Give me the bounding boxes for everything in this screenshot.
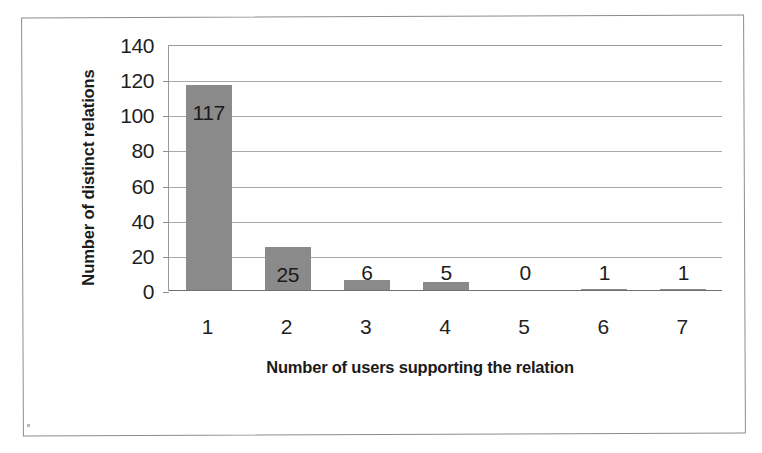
scan-speck [27,424,30,427]
x-axis-tick-label: 5 [494,316,554,337]
chart-figure: Number of distinct relations 14012010080… [0,0,762,453]
y-axis-tick-label: 20 [86,246,154,267]
bar-value-label: 117 [169,102,249,123]
x-axis-tick-label: 7 [652,316,712,337]
y-axis-tick-label: 0 [86,281,154,302]
x-axis-tick-label: 1 [178,316,238,337]
x-axis-line [169,290,722,291]
bar-value-label: 6 [327,262,407,283]
y-axis-tick-label: 40 [86,211,154,232]
y-axis-tick-label: 140 [86,35,154,56]
y-axis-tick-label: 100 [86,105,154,126]
x-axis-tick-label: 6 [573,316,633,337]
y-axis-tick-label: 60 [86,176,154,197]
bar-value-label: 1 [564,262,644,283]
plot-area: 1172565011 [168,45,722,291]
bar-value-label: 0 [485,262,565,283]
x-axis-title: Number of users supporting the relation [120,358,720,377]
x-axis-tick-label: 4 [415,316,475,337]
y-axis-tick-label: 80 [86,140,154,161]
y-axis-tick-labels: 140120100806040200 [86,35,154,305]
bar-value-label: 25 [248,264,328,285]
bar-value-label: 5 [406,262,486,283]
y-axis-tick-mark [163,292,169,293]
bar-series: 1172565011 [169,46,722,291]
y-axis-tick-label: 120 [86,70,154,91]
x-axis-tick-label: 2 [257,316,317,337]
bar-value-label: 1 [643,262,723,283]
x-axis-tick-labels: 1234567 [168,316,722,346]
x-axis-tick-label: 3 [336,316,396,337]
